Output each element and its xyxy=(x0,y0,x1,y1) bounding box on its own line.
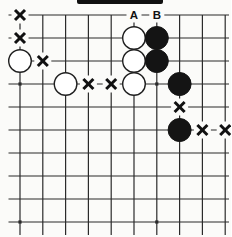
go-board-diagram: AB xyxy=(0,0,231,237)
black-stone xyxy=(168,73,191,96)
star-point xyxy=(155,82,158,85)
x-marks xyxy=(15,10,230,135)
white-stone xyxy=(123,50,146,73)
mark-masks xyxy=(12,7,232,139)
black-stone xyxy=(168,119,191,142)
star-point xyxy=(18,82,21,85)
black-stone xyxy=(145,50,168,73)
white-stone xyxy=(54,73,77,96)
star-point xyxy=(18,220,21,223)
black-stone xyxy=(145,27,168,50)
point-label-A: A xyxy=(130,9,138,21)
white-stone xyxy=(123,73,146,96)
white-stone xyxy=(123,27,146,50)
scanned-go-diagram-page: AB xyxy=(0,0,231,237)
white-stone xyxy=(9,50,32,73)
star-point xyxy=(155,220,158,223)
point-label-B: B xyxy=(153,9,161,21)
